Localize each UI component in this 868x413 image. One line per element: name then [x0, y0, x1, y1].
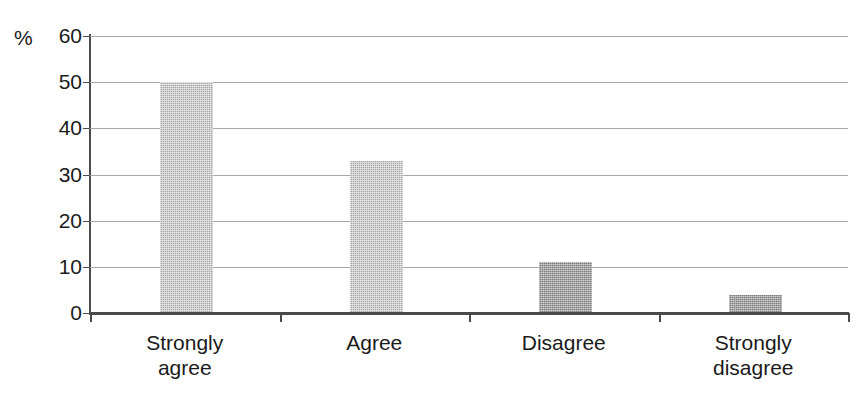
- y-axis-tick-label: 10: [48, 256, 82, 277]
- x-axis-tick-mark: [90, 313, 92, 322]
- bar: [539, 262, 592, 313]
- x-axis-category-label: Disagree: [469, 330, 659, 355]
- bar: [729, 295, 782, 313]
- x-axis-category-label: Agree: [280, 330, 470, 355]
- y-axis-tick-label: 60: [48, 25, 82, 46]
- x-axis-tick-mark: [848, 313, 850, 322]
- plot-area: [90, 36, 848, 313]
- y-axis-tick-label: 50: [48, 71, 82, 92]
- x-axis-tick-mark: [659, 313, 661, 322]
- x-axis-category-label: Strongly agree: [90, 330, 280, 380]
- y-axis-tick-label: 20: [48, 210, 82, 231]
- y-axis-tick-label: 30: [48, 164, 82, 185]
- x-axis-tick-mark: [469, 313, 471, 322]
- y-axis-tick-label: 0: [48, 302, 82, 323]
- bar: [160, 82, 213, 313]
- bar-chart: % 6050403020100 Strongly agreeAgreeDisag…: [0, 0, 868, 413]
- bar: [350, 161, 403, 313]
- y-axis-tick-labels: 6050403020100: [44, 0, 82, 413]
- gridline: [90, 36, 848, 37]
- y-axis-unit-label: %: [14, 27, 33, 48]
- x-axis-category-label: Strongly disagree: [659, 330, 849, 380]
- x-axis-tick-mark: [280, 313, 282, 322]
- y-axis-tick-label: 40: [48, 117, 82, 138]
